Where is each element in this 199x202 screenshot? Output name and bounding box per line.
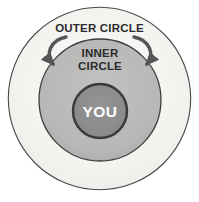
diagram-canvas: OUTER CIRCLE INNER CIRCLE YOU [0,0,199,202]
inner-circle-label-line1: INNER [82,47,119,59]
center-circle-label: YOU [83,103,118,120]
inner-circle-label-line2: CIRCLE [78,60,122,72]
outer-circle-label: OUTER CIRCLE [55,22,144,34]
concentric-circles-diagram: OUTER CIRCLE INNER CIRCLE YOU [0,0,199,202]
